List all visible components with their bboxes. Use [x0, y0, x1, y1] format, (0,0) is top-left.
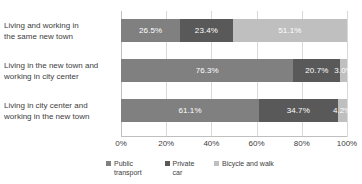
bar-segment: 3.0%	[340, 59, 347, 82]
bar-segment-value-label: 26.5%	[139, 27, 162, 35]
legend-item[interactable]: Bicycle and walk	[214, 159, 286, 168]
x-axis-tick-labels: 0%20%40%60%80%100%	[121, 139, 347, 151]
x-tick-label-40: 40%	[203, 139, 219, 148]
bar-segment-value-label: 3.0%	[334, 67, 353, 75]
bar-segment-value-label: 61.1%	[178, 107, 201, 115]
bar-segment-value-label: 23.4%	[195, 27, 218, 35]
legend-label-line: car	[173, 168, 195, 177]
bar-row: 61.1%34.7%4.2%	[121, 99, 347, 122]
bar-row: 26.5%23.4%51.1%	[121, 19, 347, 42]
plot-area: 26.5%23.4%51.1%76.3%20.7%3.0%61.1%34.7%4…	[121, 11, 347, 137]
category-label-1: Living in the new town and working in ci…	[4, 60, 118, 82]
legend-swatch-icon	[165, 161, 170, 166]
bar-segment: 76.3%	[121, 59, 293, 82]
legend-label-line: Bicycle and walk	[222, 159, 274, 168]
category-label-2-line-0: Living in city center and	[4, 100, 118, 111]
bar-segment: 4.2%	[338, 99, 347, 122]
legend-label-line: Public	[114, 159, 142, 168]
x-tick-label-100: 100%	[337, 139, 357, 148]
bar-segment-value-label: 34.7%	[287, 107, 310, 115]
x-tick-label-20: 20%	[158, 139, 174, 148]
x-tick-label-60: 60%	[249, 139, 265, 148]
x-tick-label-0: 0%	[115, 139, 127, 148]
category-label-0-line-1: the same new town	[4, 31, 118, 42]
legend-label: Bicycle and walk	[222, 159, 274, 168]
category-label-0-line-0: Living and working in	[4, 20, 118, 31]
bar-segment-value-label: 4.2%	[333, 107, 352, 115]
bar-segment-value-label: 20.7%	[305, 67, 328, 75]
bar-segment: 34.7%	[259, 99, 337, 122]
legend-swatch-icon	[106, 161, 111, 166]
category-axis-labels: Living and working in the same new town …	[4, 11, 118, 137]
legend-item[interactable]: Privatecar	[165, 159, 205, 177]
category-label-2: Living in city center and working in the…	[4, 100, 118, 122]
legend-label-line: transport	[114, 168, 142, 177]
legend-label: Privatecar	[173, 159, 195, 177]
category-label-2-line-1: working in the new town	[4, 111, 118, 122]
category-label-0: Living and working in the same new town	[4, 20, 118, 42]
bar-row: 76.3%20.7%3.0%	[121, 59, 347, 82]
bar-segment-value-label: 76.3%	[196, 67, 219, 75]
bar-segment-value-label: 51.1%	[278, 27, 301, 35]
legend-label: Publictransport	[114, 159, 142, 177]
stacked-bar-chart: Living and working in the same new town …	[0, 0, 362, 184]
chart-legend: PublictransportPrivatecarBicycle and wal…	[106, 159, 296, 181]
legend-item[interactable]: Publictransport	[106, 159, 155, 177]
category-label-1-line-0: Living in the new town and	[4, 60, 118, 71]
x-tick-label-80: 80%	[294, 139, 310, 148]
bar-segment: 20.7%	[293, 59, 340, 82]
category-label-1-line-1: working in city center	[4, 71, 118, 82]
legend-swatch-icon	[214, 161, 219, 166]
legend-label-line: Private	[173, 159, 195, 168]
bar-segment: 23.4%	[180, 19, 232, 42]
bar-segment: 26.5%	[121, 19, 180, 42]
bar-segment: 61.1%	[121, 99, 259, 122]
bar-rows: 26.5%23.4%51.1%76.3%20.7%3.0%61.1%34.7%4…	[121, 11, 347, 137]
bar-segment: 51.1%	[233, 19, 347, 42]
